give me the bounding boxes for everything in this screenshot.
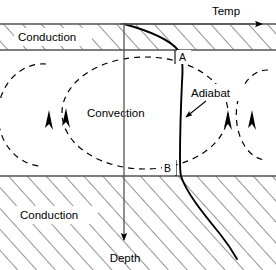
depth-axis-label: Depth [110, 252, 141, 264]
point-b-label: B [164, 162, 171, 174]
point-a-marker: A [175, 50, 191, 64]
point-a-label: A [179, 51, 186, 63]
convection-cell-left-arc [0, 64, 46, 166]
arrowhead-right-outer-up [248, 110, 256, 130]
temperature-axis-label: Temp [212, 5, 240, 17]
temperature-depth-diagram: Conduction Conduction [0, 0, 276, 270]
adiabat-leader-line [186, 101, 206, 117]
arrowhead-left-outer-up [45, 110, 53, 130]
convection-label: Convection [87, 107, 145, 119]
upper-conduction-label: Conduction [18, 31, 76, 43]
diagram-canvas: Conduction Conduction [0, 0, 276, 270]
convection-label-group: Convection [84, 104, 162, 122]
lower-conduction-label: Conduction [20, 209, 78, 221]
arrowhead-left-inner-up [62, 108, 70, 128]
adiabat-label: Adiabat [191, 87, 231, 99]
point-b-marker: B [162, 160, 176, 176]
